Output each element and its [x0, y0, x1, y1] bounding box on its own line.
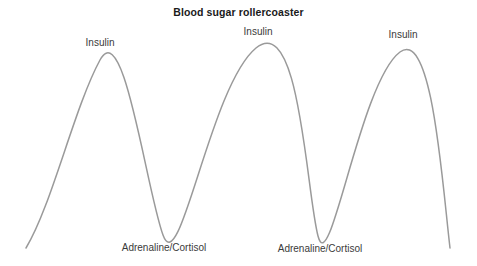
peak-label-insulin-2: Insulin	[244, 25, 273, 38]
valley-label-adrenaline-cortisol-1: Adrenaline/Cortisol	[122, 241, 207, 254]
blood-sugar-rollercoaster-figure: Blood sugar rollercoaster Insulin Insuli…	[0, 0, 477, 266]
peak-label-insulin-1: Insulin	[86, 36, 115, 49]
blood-sugar-curve	[26, 43, 450, 248]
valley-label-adrenaline-cortisol-2: Adrenaline/Cortisol	[278, 242, 363, 255]
peak-label-insulin-3: Insulin	[389, 28, 418, 41]
